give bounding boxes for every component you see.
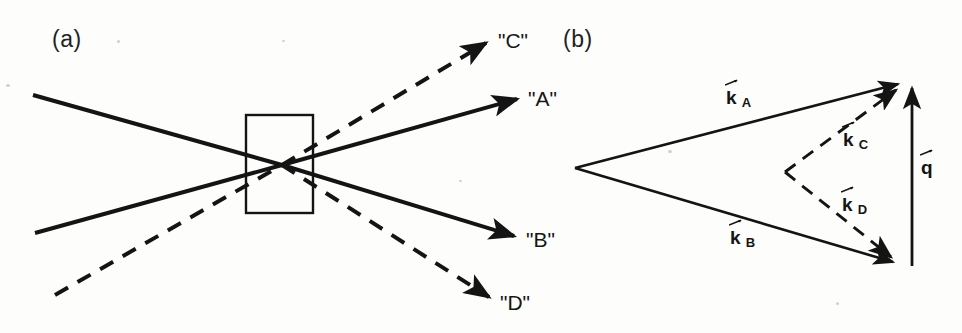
vector-label-kB: k B (730, 228, 755, 249)
beam-A-line (282, 99, 517, 165)
vector-label-kB-subscript: B (746, 235, 755, 250)
vector-label-kB-symbol: k (730, 228, 741, 247)
beam-label-A: "A" (528, 87, 557, 111)
beam-label-C: "C" (498, 29, 528, 53)
vector-label-kA: k A (726, 88, 751, 109)
panel-b-label: (b) (563, 26, 593, 53)
figure-drawing (0, 0, 962, 333)
input-solid-upper (33, 95, 282, 165)
beam-label-B: "B" (526, 228, 555, 252)
input-dashed (55, 165, 282, 295)
panel-a-label: (a) (52, 26, 82, 53)
vector-label-kD-symbol: k (842, 195, 853, 214)
vector-label-q: q (921, 158, 933, 179)
vector-kD-line (785, 172, 891, 257)
vector-kC-line (785, 90, 896, 172)
beam-B-line (282, 165, 514, 236)
vector-label-kC-subscript: C (859, 137, 868, 152)
panel-a-drawing (33, 43, 517, 297)
beam-C-line (282, 43, 486, 165)
figure-container: (a) (b) "C" "A" "B" "D" k A k B k C k (0, 0, 962, 333)
vector-label-q-symbol: q (921, 158, 933, 177)
vector-label-kD: k D (842, 195, 867, 216)
vector-label-kD-subscript: D (858, 202, 867, 217)
vector-label-kA-symbol: k (726, 88, 737, 107)
beam-D-line (282, 165, 489, 297)
vector-label-kC-symbol: k (843, 130, 854, 149)
beam-label-D: "D" (500, 291, 530, 315)
vector-label-kC: k C (843, 130, 868, 151)
vector-label-kA-subscript: A (742, 95, 751, 110)
